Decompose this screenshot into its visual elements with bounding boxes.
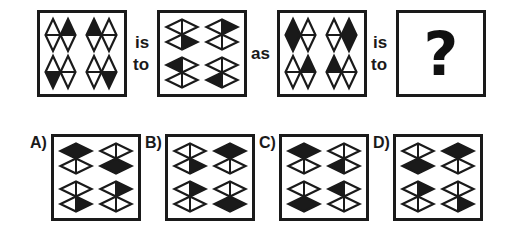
figure-1-diamonds — [40, 13, 124, 94]
connector-is-2: is — [373, 33, 387, 53]
option-b-diamonds — [168, 137, 252, 218]
connector-is-1: is — [135, 33, 149, 53]
option-d-diamonds — [396, 137, 480, 218]
option-c-box[interactable] — [279, 134, 369, 221]
option-a-diamonds — [54, 137, 138, 218]
option-a-label: A) — [30, 134, 47, 152]
option-c-label: C) — [259, 134, 276, 152]
figure-3-box — [277, 10, 367, 97]
figure-2-diamonds — [160, 13, 244, 94]
option-c-diamonds — [282, 137, 366, 218]
option-d-label: D) — [373, 134, 390, 152]
figure-4-box: ? — [396, 10, 486, 97]
connector-to-1: to — [133, 55, 149, 75]
option-b-label: B) — [145, 134, 162, 152]
connector-as: as — [251, 44, 270, 64]
analogy-puzzle: is to as is to ? A) B) C) D) — [0, 0, 508, 245]
figure-1-box — [37, 10, 127, 97]
option-a-box[interactable] — [51, 134, 141, 221]
question-mark: ? — [399, 13, 483, 94]
figure-2-box — [157, 10, 247, 97]
option-b-box[interactable] — [165, 134, 255, 221]
figure-3-diamonds — [280, 13, 364, 94]
option-d-box[interactable] — [393, 134, 483, 221]
connector-to-2: to — [371, 55, 387, 75]
